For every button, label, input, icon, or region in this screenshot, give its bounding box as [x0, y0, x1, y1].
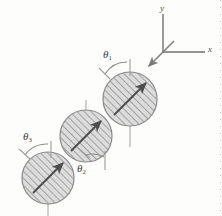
theta-3-symbol: θ [23, 130, 28, 142]
y-axis-label: y [160, 4, 164, 13]
theta-1-symbol: θ [103, 48, 108, 60]
scan-edge-artifact [220, 0, 221, 216]
theta-3-subscript: 3 [29, 136, 32, 143]
diagram-canvas [0, 0, 222, 216]
disc-1 [103, 72, 157, 126]
theta-1-label: θ1 [103, 49, 112, 62]
theta-2-symbol: θ [77, 162, 82, 174]
theta-2-subscript: 2 [83, 168, 86, 175]
physics-diagram-figure: y x θ1 θ2 θ3 [0, 0, 222, 216]
theta-2-label: θ2 [77, 163, 86, 176]
theta-3-label: θ3 [23, 131, 32, 144]
incoming-direction-arrow [149, 41, 174, 66]
theta-1-subscript: 1 [109, 54, 112, 61]
disc-3 [22, 152, 74, 204]
x-axis-label: x [208, 45, 212, 54]
